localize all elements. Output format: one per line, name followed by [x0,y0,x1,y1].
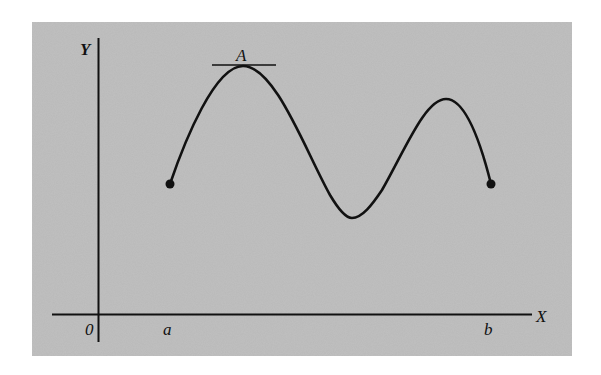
function-graph-diagram: Y X 0 a b A [0,0,601,375]
max-point-label: A [235,46,247,65]
x-axis-label: X [535,307,547,326]
panel-texture [32,22,572,356]
point-a-label: a [163,320,172,339]
point-b-label: b [484,320,493,339]
origin-label: 0 [85,320,94,339]
endpoint-b-dot [487,180,496,189]
endpoint-a-dot [166,180,175,189]
y-axis-label: Y [80,40,92,59]
